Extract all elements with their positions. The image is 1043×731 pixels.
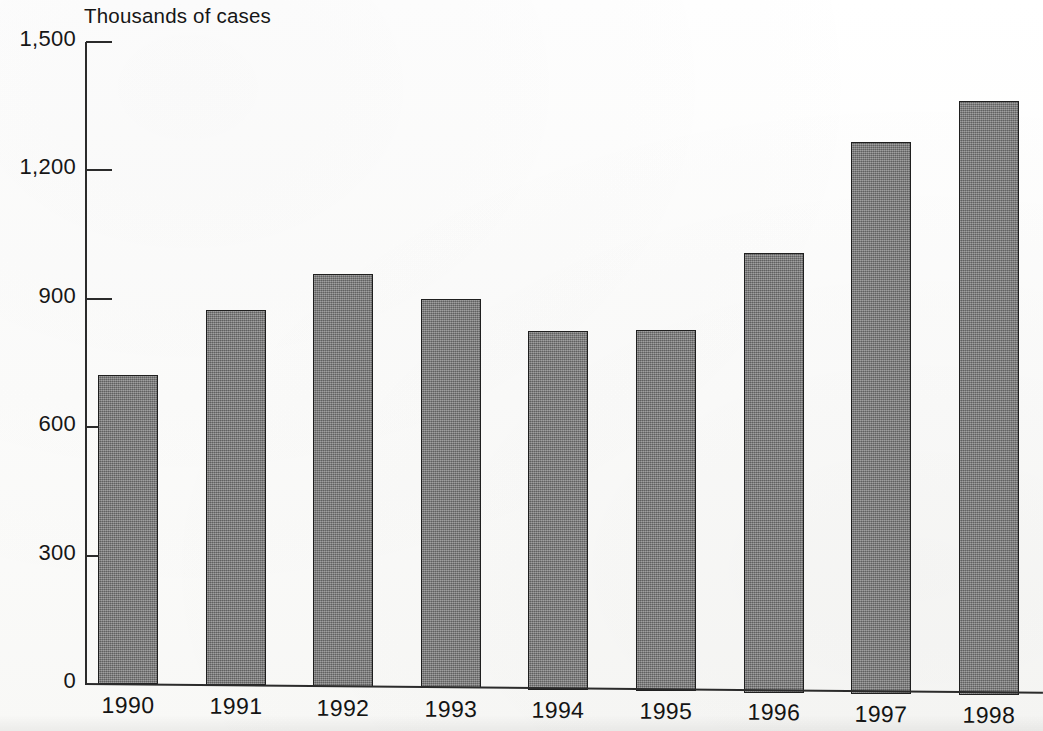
x-axis-label-1998: 1998 xyxy=(943,702,1035,730)
bar-1993 xyxy=(421,299,481,689)
y-axis-line xyxy=(85,42,87,685)
y-axis-tick-600 xyxy=(86,426,99,428)
chart-axis-title: Thousands of cases xyxy=(84,4,271,28)
x-axis-label-1991: 1991 xyxy=(190,693,282,721)
y-axis-tick-label: 600 xyxy=(38,411,76,437)
y-axis-tick-label: 1,500 xyxy=(19,26,76,52)
y-axis-tick-900 xyxy=(86,298,112,300)
x-axis-label-1993: 1993 xyxy=(405,696,497,724)
bar-chart-figure: Thousands of cases 1,5001,2009006003000 … xyxy=(0,0,1043,731)
y-axis-tick-1200 xyxy=(86,169,112,171)
x-axis-label-1995: 1995 xyxy=(620,698,712,726)
bar-1990 xyxy=(98,375,158,684)
plot-area xyxy=(0,0,1043,731)
bar-1992 xyxy=(313,274,373,687)
y-axis-tick-300 xyxy=(86,555,99,557)
x-axis-label-1992: 1992 xyxy=(297,695,389,723)
x-axis-label-1994: 1994 xyxy=(512,697,604,725)
bar-1994 xyxy=(528,331,588,690)
bar-1996 xyxy=(744,253,804,692)
y-axis-tick-label: 900 xyxy=(38,283,76,309)
bar-1997 xyxy=(851,142,911,694)
x-axis-label-1996: 1996 xyxy=(727,699,819,727)
x-axis-label-1990: 1990 xyxy=(82,692,174,719)
y-axis-tick-label: 0 xyxy=(63,668,76,694)
x-axis-label-1997: 1997 xyxy=(835,701,927,729)
bar-1998 xyxy=(959,101,1019,695)
y-axis-tick-1500 xyxy=(86,41,112,43)
bar-1991 xyxy=(206,310,266,685)
y-axis-tick-label: 1,200 xyxy=(19,154,76,180)
y-axis-tick-label: 300 xyxy=(38,540,76,566)
bar-1995 xyxy=(636,330,696,691)
